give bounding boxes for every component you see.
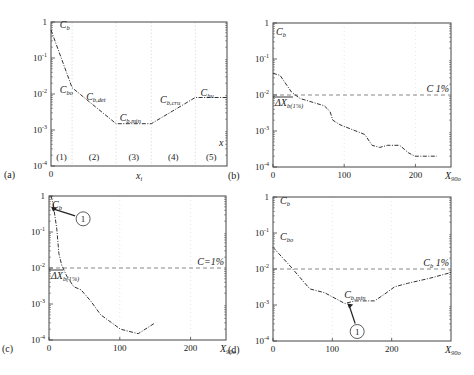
y-tick-label: 10-2 <box>31 262 45 273</box>
region-label: (5) <box>206 152 217 162</box>
x-tick-label: 0 <box>271 170 276 180</box>
series-line <box>273 73 437 156</box>
y-tick-label: 10-2 <box>255 89 269 100</box>
threshold-label: C 1% <box>427 83 450 94</box>
y-tick-label: 10-1 <box>31 226 45 237</box>
x-tick-label: 0 <box>271 344 276 354</box>
corner-label: x <box>218 137 224 148</box>
panel-a: 110-110-210-310-40xi(a)(1)(2)(3)(4)(5)xC… <box>4 17 227 182</box>
chart-canvas: 110-110-210-310-40xi(a)(1)(2)(3)(4)(5)xC… <box>0 0 474 375</box>
panel-label: (c) <box>2 343 13 355</box>
y-tick-label: 10-1 <box>255 53 269 64</box>
y-tick-label: 1 <box>41 191 46 201</box>
panel-d: 110-110-210-310-40100200X90o(d)Cb 1%CbCb… <box>228 192 462 356</box>
marker-label: 1 <box>355 327 360 337</box>
x-tick-label: 200 <box>409 170 423 180</box>
threshold-label: Cb 1% <box>423 257 449 269</box>
region-label: (3) <box>128 152 139 162</box>
marker-label: 1 <box>81 214 86 224</box>
y-tick-label: 10-1 <box>255 227 269 238</box>
x-axis-label: X90o <box>444 170 462 182</box>
x-axis-label: xi <box>135 170 142 182</box>
y-tick-label: 10-4 <box>31 334 45 345</box>
y-tick-label: 10-3 <box>255 299 269 310</box>
y-axis-label: Cb <box>276 26 287 38</box>
y-tick-label: 1 <box>43 17 48 27</box>
y-tick-label: 1 <box>265 18 270 28</box>
y-tick-label: 10-2 <box>255 263 269 274</box>
y-tick-label: 10-3 <box>31 298 45 309</box>
y-tick-label: 10-1 <box>33 52 47 63</box>
x-tick-label: 100 <box>113 343 127 353</box>
axes-box <box>273 197 451 341</box>
y-tick-label: 10-3 <box>33 124 47 135</box>
marker-arrow <box>349 306 355 324</box>
x-tick-label: 0 <box>49 169 54 179</box>
curve-annotation: Cbo <box>280 231 294 243</box>
curve-annotation: Cb,min <box>120 112 141 124</box>
marker-arrow <box>53 209 75 216</box>
curve-annotation: Cb,det <box>86 91 106 103</box>
x-axis-label: X90o <box>444 344 462 356</box>
curve-annotation: Cb,min <box>344 289 365 301</box>
y-tick-label: 1 <box>265 192 270 202</box>
delta-x-label: ΔXb(1%) <box>50 270 79 283</box>
panel-label: (d) <box>228 344 240 356</box>
panel-label: (b) <box>228 170 240 182</box>
y-tick-label: 10-4 <box>255 335 269 346</box>
panel-c: 110-110-210-310-40100200X90o(c)C=1%ΔXb(1… <box>2 191 237 355</box>
panel-b: 110-110-210-310-40100200X90o(b)C 1%ΔXb(1… <box>228 18 462 182</box>
delta-x-label: ΔXb(1%) <box>274 97 303 110</box>
region-label: (1) <box>56 152 67 162</box>
series-line <box>51 30 227 124</box>
x-tick-label: 200 <box>385 344 399 354</box>
x-tick-label: 100 <box>337 170 351 180</box>
x-tick-label: 0 <box>47 343 52 353</box>
x-tick-label: 200 <box>184 343 198 353</box>
threshold-label: C=1% <box>197 256 224 267</box>
curve-annotation: Cb <box>60 19 71 31</box>
y-tick-label: 10-4 <box>33 160 47 171</box>
panel-label: (a) <box>4 169 15 181</box>
region-label: (2) <box>89 152 100 162</box>
curve-annotation: Cb,cru <box>160 94 181 106</box>
curve-annotation: Cbu <box>201 87 215 99</box>
y-tick-label: 10-2 <box>33 88 47 99</box>
axes-box <box>273 23 451 167</box>
x-tick-label: 100 <box>326 344 340 354</box>
y-tick-label: 10-4 <box>255 161 269 172</box>
region-label: (4) <box>168 152 179 162</box>
series-line <box>51 196 155 334</box>
figure: 110-110-210-310-40xi(a)(1)(2)(3)(4)(5)xC… <box>0 0 474 375</box>
y-tick-label: 10-3 <box>255 125 269 136</box>
